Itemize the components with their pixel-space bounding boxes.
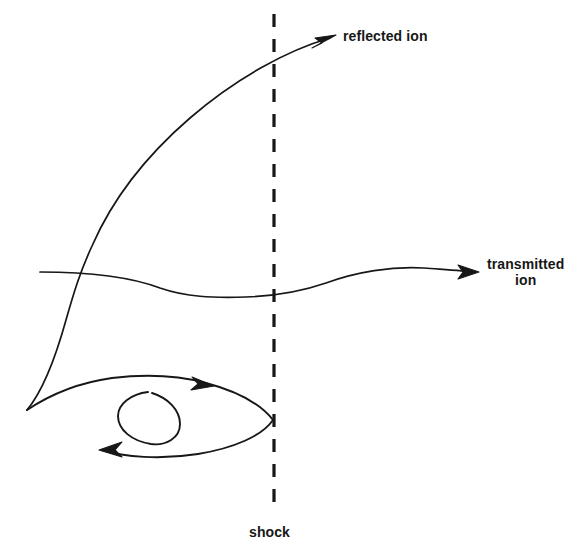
transmitted-ion-label-line2: ion — [487, 272, 564, 288]
reflected-ion-arrowhead — [312, 35, 336, 48]
gyration-loop-outer — [27, 376, 273, 457]
gyration-loop-inner — [118, 392, 180, 444]
shock-label: shock — [249, 524, 290, 540]
transmitted-ion-label: transmittedion — [487, 256, 564, 288]
gyration-return-arrowhead — [99, 442, 122, 457]
transmitted-ion-arrowhead — [458, 265, 479, 279]
reflected-ion-trajectory — [27, 38, 330, 410]
transmitted-ion-label-line1: transmitted — [487, 256, 564, 272]
reflected-ion-label: reflected ion — [343, 28, 428, 44]
transmitted-ion-trajectory — [40, 268, 474, 298]
ion-trajectory-diagram: reflected ion transmittedion shock — [0, 0, 588, 550]
